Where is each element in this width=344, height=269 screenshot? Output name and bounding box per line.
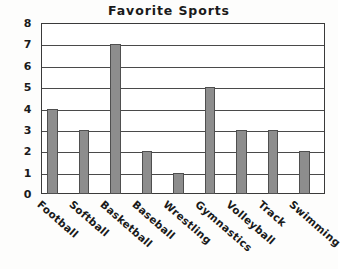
gridline (42, 110, 324, 111)
y-axis-tick-label: 3 (24, 123, 32, 136)
gridline (42, 131, 324, 132)
y-axis-tick-label: 6 (24, 59, 32, 72)
y-axis-tick-label: 2 (24, 145, 32, 158)
gridline (42, 67, 324, 68)
y-axis-tick-label: 8 (24, 17, 32, 30)
y-axis-tick-label: 5 (24, 81, 32, 94)
y-axis: 012345678 (0, 23, 38, 194)
x-axis: FootballSoftballBasketballBaseballWrestl… (41, 194, 338, 269)
gridline (42, 152, 324, 153)
gridline (42, 174, 324, 175)
chart-title: Favorite Sports (0, 3, 338, 18)
gridline (42, 45, 324, 46)
y-axis-tick-label: 7 (24, 38, 32, 51)
y-axis-tick-label: 1 (24, 166, 32, 179)
x-axis-tick-label: Swimming (288, 198, 344, 249)
y-axis-tick-label: 4 (24, 102, 32, 115)
plot-area (41, 23, 325, 194)
y-axis-tick-label: 0 (24, 188, 32, 201)
gridline (42, 88, 324, 89)
